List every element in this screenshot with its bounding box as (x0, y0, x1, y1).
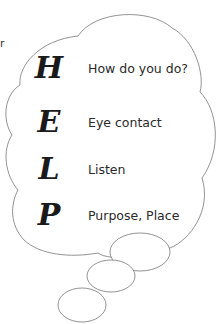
acronym-row-e: E Eye contact (30, 107, 162, 137)
row-label: How do you do? (88, 61, 188, 76)
row-label: Listen (88, 162, 125, 177)
acronym-row-l: L Listen (30, 154, 125, 184)
row-label: Purpose, Place (88, 208, 179, 223)
initial-letter: H (30, 53, 68, 83)
initial-letter: L (30, 154, 68, 184)
initial-letter: P (30, 200, 68, 230)
acronym-row-p: P Purpose, Place (30, 200, 179, 230)
initial-letter: E (30, 107, 68, 137)
acronym-row-h: H How do you do? (30, 53, 188, 83)
stray-text: r (0, 38, 5, 49)
row-label: Eye contact (88, 115, 162, 130)
